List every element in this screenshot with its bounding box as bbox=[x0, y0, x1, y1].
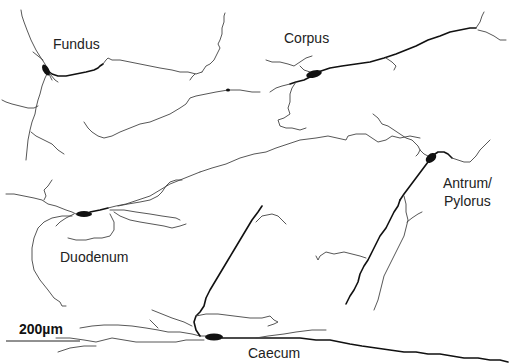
caecum-soma bbox=[205, 334, 223, 341]
label-antrum-line2: Pylorus bbox=[444, 193, 491, 209]
fundus-corpus-connecting-fiber bbox=[84, 89, 260, 139]
duodenum-soma bbox=[76, 211, 92, 217]
varicosity bbox=[226, 89, 230, 92]
label-corpus: Corpus bbox=[284, 30, 329, 46]
label-fundus: Fundus bbox=[53, 36, 100, 52]
fundus-neuron bbox=[2, 10, 225, 160]
neuron-tracing-figure bbox=[0, 0, 516, 364]
label-antrum-line1: Antrum/ bbox=[443, 175, 492, 191]
label-caecum: Caecum bbox=[248, 345, 300, 361]
scale-bar-label: 200µm bbox=[19, 321, 63, 337]
label-duodenum: Duodenum bbox=[60, 249, 129, 265]
caecum-neuron bbox=[56, 206, 508, 362]
